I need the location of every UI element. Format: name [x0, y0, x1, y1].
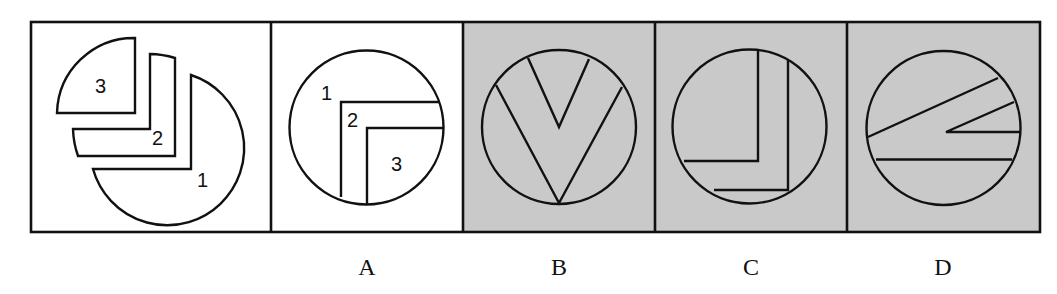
piece-1-label: 1	[197, 169, 208, 191]
option-a-piece-2-label: 2	[347, 109, 358, 131]
option-a-label[interactable]: A	[358, 254, 376, 280]
piece-2-label: 2	[152, 127, 163, 149]
option-c-panel-bg	[655, 22, 847, 232]
puzzle-figure: 3 2 1 1 2 3 A B C D	[0, 0, 1057, 294]
option-c-label[interactable]: C	[743, 254, 759, 280]
option-a-piece-1-label: 1	[321, 82, 332, 104]
option-a-piece-3-label: 3	[391, 153, 402, 175]
option-d-panel-bg	[847, 22, 1040, 232]
option-b-label[interactable]: B	[551, 254, 567, 280]
piece-3-label: 3	[95, 75, 106, 97]
option-d-label[interactable]: D	[934, 254, 951, 280]
